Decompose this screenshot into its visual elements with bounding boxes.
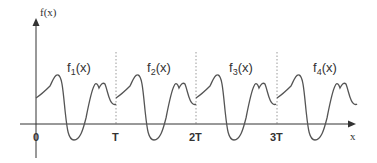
curve-segment-3: [196, 75, 276, 140]
tick-label-0: 0: [33, 131, 39, 143]
x-axis-arrow-icon: [348, 121, 356, 128]
segment-label-2: f2(x): [147, 60, 171, 77]
curve-segment-2: [116, 75, 196, 140]
x-axis-label: x: [350, 130, 356, 142]
curve-segment-4: [277, 75, 357, 140]
segment-label-4: f4(x): [313, 60, 337, 77]
tick-label-T: T: [112, 131, 119, 143]
y-axis-label: f(x): [40, 6, 57, 19]
segment-label-1: f1(x): [67, 60, 91, 77]
curve-segment-1: [36, 75, 116, 140]
tick-label-3T: 3T: [270, 131, 283, 143]
y-axis-arrow-icon: [33, 18, 40, 26]
periodic-function-diagram: f(x) x 0 T 2T 3T f1(x) f2(x) f3(x) f4(x): [0, 0, 377, 163]
tick-label-2T: 2T: [189, 131, 202, 143]
segment-label-3: f3(x): [229, 60, 253, 77]
